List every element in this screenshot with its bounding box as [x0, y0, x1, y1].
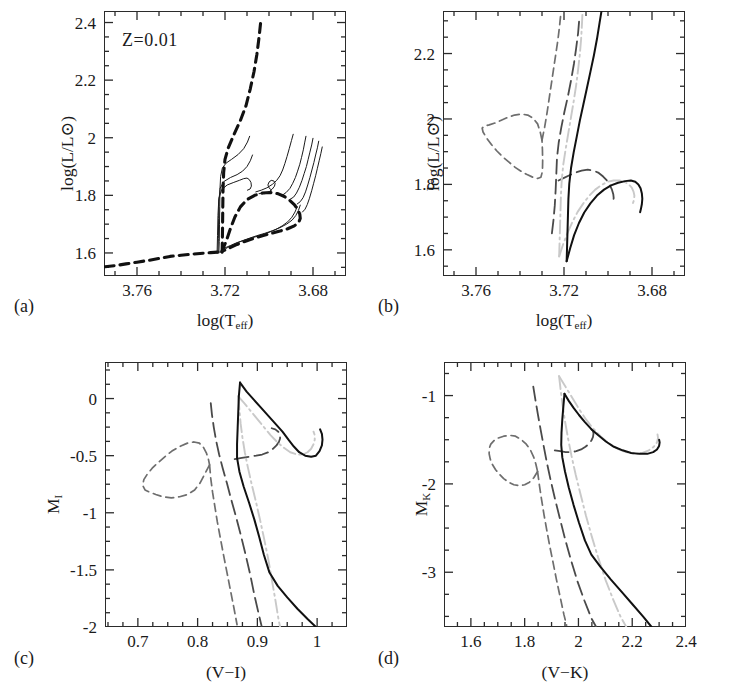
curve-d-dash-dot-rise	[559, 376, 626, 627]
curve-d-solid-black-rise	[561, 394, 651, 627]
xaxis-title-d: (V−K)	[444, 662, 686, 683]
ytick-label-d-2: -1	[422, 387, 436, 406]
curve-d-solid-black-loop	[564, 394, 659, 454]
xtick-label-d-4: 2.4	[675, 632, 697, 651]
xtick-label-d-3: 2.2	[622, 632, 643, 651]
curve-d-short-dash-loop	[489, 435, 537, 485]
xtick-label-d-2: 2	[574, 632, 583, 651]
ytick-label-d-1: -2	[422, 475, 436, 494]
yaxis-title-d: MK	[411, 493, 432, 517]
xtick-label-d-1: 1.8	[514, 632, 535, 651]
panel-tag-d: (d)	[378, 648, 399, 669]
curve-d-short-dash-rise	[538, 472, 567, 626]
plot-canvas-d: 1.61.822.22.4-3-2-1	[0, 0, 729, 696]
ytick-label-d-0: -3	[422, 563, 436, 582]
xtick-label-d-0: 1.6	[460, 632, 481, 651]
